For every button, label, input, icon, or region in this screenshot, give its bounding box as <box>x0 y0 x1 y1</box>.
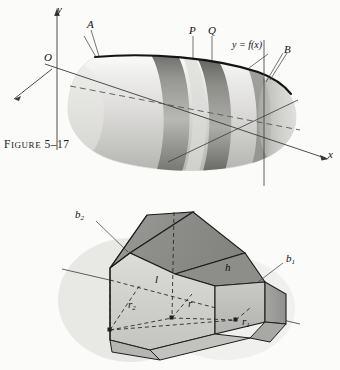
right-end-cap <box>258 67 302 167</box>
label-radius-r1: r1 <box>242 316 250 329</box>
point-label-a: A <box>87 19 94 30</box>
origin-label: O <box>44 52 52 63</box>
leader-line-a2 <box>84 36 96 57</box>
point-label-p: P <box>189 25 196 36</box>
leader-line-b <box>266 53 283 82</box>
point-label-b: B <box>284 44 291 55</box>
caption-word: IGURE <box>11 140 41 150</box>
leader-line-b2 <box>270 53 287 80</box>
label-b1: b1 <box>286 253 295 266</box>
figure-5-17-caption: FIGURE 5–17 <box>4 138 70 150</box>
label-radius-r2: r2 <box>128 299 136 312</box>
figure-5-18-drawing <box>0 190 340 370</box>
figure-5-17: y x O A P Q B y = f(x) FIGURE 5–17 <box>0 0 340 190</box>
y-axis-label: y <box>57 4 62 15</box>
caption-number: 5–17 <box>44 138 69 150</box>
figure-5-18: b2 b1 l h r2 r r1 FIGURE 5–18 <box>0 190 340 370</box>
label-radius-r: r <box>188 298 192 309</box>
label-height-h: h <box>225 262 231 273</box>
y-axis <box>54 8 60 150</box>
label-b2: b2 <box>75 209 84 222</box>
figure-5-17-drawing <box>0 0 340 190</box>
leader-line-curve <box>249 54 268 68</box>
curve-equation-label: y = f(x) <box>232 40 262 50</box>
label-slant-l: l <box>155 274 158 285</box>
solid-of-revolution <box>52 52 302 174</box>
leader-line-a <box>91 30 99 56</box>
caption-initial: F <box>4 138 11 150</box>
textbook-figure-page: y x O A P Q B y = f(x) FIGURE 5–17 <box>0 0 340 370</box>
point-label-q: Q <box>208 25 216 36</box>
x-axis-label: x <box>328 149 333 160</box>
z-axis <box>14 69 52 101</box>
